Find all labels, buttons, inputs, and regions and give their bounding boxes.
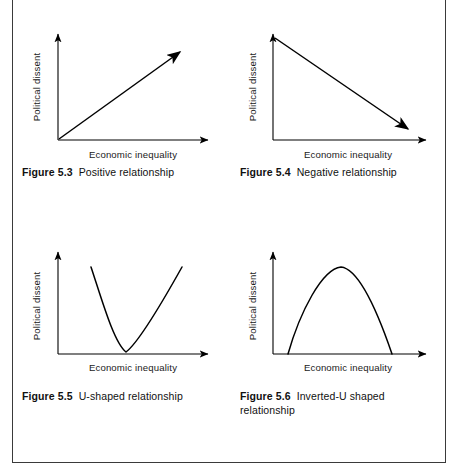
y-axis-label: Political dissent [247,271,258,340]
figure-5-4-plot: Political dissent Economic inequality [240,14,446,166]
figure-caption-text: Positive relationship [79,166,174,178]
figure-5-5-caption: Figure 5.5 U-shaped relationship [22,390,240,404]
figure-5-6-caption: Figure 5.6 Inverted-U shapedrelationship [240,390,446,418]
negative-relationship-chart: Political dissent Economic inequality [240,14,446,166]
x-axis-label: Economic inequality [304,149,392,160]
figure-caption-text: Negative relationship [297,166,397,178]
figure-5-6: Political dissent Economic inequality Fi… [240,238,446,418]
figure-5-3: Political dissent Economic inequality Fi… [22,14,240,180]
figure-caption-text: Inverted-U shaped [297,390,385,402]
y-axis-label: Political dissent [31,271,42,340]
x-axis-label: Economic inequality [304,362,392,373]
figure-number: Figure 5.6 [240,390,291,402]
data-curve-inverted-u-shape [288,267,392,354]
figure-5-4: Political dissent Economic inequality Fi… [240,14,446,180]
figure-number: Figure 5.4 [240,166,291,178]
x-axis-label: Economic inequality [89,362,177,373]
u-shaped-relationship-chart: Political dissent Economic inequality [22,238,240,390]
figure-5-4-caption: Figure 5.4 Negative relationship [240,166,446,180]
data-curve-u-shape [91,267,182,352]
figure-5-3-caption: Figure 5.3 Positive relationship [22,166,240,180]
figure-5-6-plot: Political dissent Economic inequality [240,238,446,390]
figure-5-5-plot: Political dissent Economic inequality [22,238,240,390]
inverted-u-shaped-relationship-chart: Political dissent Economic inequality [240,238,446,390]
y-axis-label: Political dissent [31,52,42,121]
x-axis-label: Economic inequality [89,149,177,160]
data-line-positive [59,52,180,139]
data-line-negative [275,38,408,129]
figure-5-3-plot: Political dissent Economic inequality [22,14,240,166]
figure-grid: Political dissent Economic inequality Fi… [12,0,446,462]
figure-number: Figure 5.3 [22,166,73,178]
figure-5-5: Political dissent Economic inequality Fi… [22,238,240,404]
figure-caption-text-line2: relationship [240,404,295,416]
y-axis-label: Political dissent [247,52,258,121]
figure-caption-text: U-shaped relationship [79,390,183,402]
positive-relationship-chart: Political dissent Economic inequality [22,14,240,166]
figure-number: Figure 5.5 [22,390,73,402]
